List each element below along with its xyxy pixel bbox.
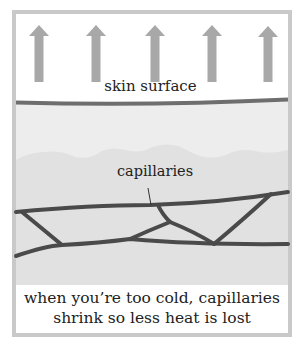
- caption-line-2: shrink so less heat is lost: [16, 308, 288, 328]
- arrow-up-icon: [86, 25, 106, 82]
- caption: when you’re too cold, capillaries shrink…: [16, 288, 288, 328]
- arrow-up-icon: [258, 26, 278, 82]
- skin-surface-line: [16, 100, 288, 104]
- arrow-up-icon: [202, 25, 222, 82]
- arrow-up-icon: [145, 25, 165, 82]
- skin-surface-label: skin surface: [0, 77, 301, 95]
- arrow-up-icon: [29, 25, 49, 82]
- caption-line-1: when you’re too cold, capillaries: [16, 288, 288, 308]
- heat-arrows: [29, 25, 278, 82]
- capillaries-label: capillaries: [100, 163, 210, 179]
